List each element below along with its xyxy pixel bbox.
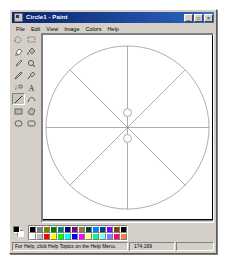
menu-item-edit[interactable]: Edit <box>28 25 43 33</box>
upper-small-circle <box>124 109 132 117</box>
drawing-vector <box>43 35 212 219</box>
color-cell[interactable] <box>92 233 99 240</box>
title-bar[interactable]: Circle1 - Paint _ □ × <box>12 12 214 23</box>
color-cell[interactable] <box>85 233 92 240</box>
color-cell[interactable] <box>78 233 85 240</box>
paint-app-icon <box>14 13 23 22</box>
color-cell[interactable] <box>29 233 36 240</box>
color-cell[interactable] <box>50 233 57 240</box>
svg-text:A: A <box>29 83 35 92</box>
color-cell[interactable] <box>57 226 64 233</box>
color-cell[interactable] <box>85 226 92 233</box>
color-cell[interactable] <box>92 226 99 233</box>
color-cell[interactable] <box>106 233 113 240</box>
color-cell[interactable] <box>71 226 78 233</box>
color-cell[interactable] <box>71 233 78 240</box>
color-cell[interactable] <box>43 226 50 233</box>
color-cell[interactable] <box>36 233 43 240</box>
tool-fill-with-color[interactable] <box>25 45 38 57</box>
color-grid <box>28 225 128 241</box>
menu-bar: File Edit View Image Colors Help <box>12 24 214 33</box>
paint-application-window: Circle1 - Paint _ □ × File Edit View Ima… <box>9 9 217 254</box>
tool-select[interactable] <box>25 33 38 45</box>
tool-line[interactable] <box>12 93 25 105</box>
status-help-text: For Help, click Help Topics on the Help … <box>12 242 128 251</box>
tool-rounded-rectangle[interactable] <box>25 117 38 129</box>
tool-brush[interactable] <box>25 69 38 81</box>
tool-curve[interactable] <box>25 93 38 105</box>
active-color-indicator[interactable] <box>12 225 26 239</box>
desktop-background: Circle1 - Paint _ □ × File Edit View Ima… <box>0 0 228 260</box>
tool-text[interactable]: A <box>25 81 38 93</box>
color-cell[interactable] <box>120 233 127 240</box>
color-cell[interactable] <box>113 226 120 233</box>
tool-airbrush[interactable] <box>12 81 25 93</box>
menu-item-help[interactable]: Help <box>104 25 121 33</box>
color-cell[interactable] <box>113 233 120 240</box>
tool-pick-color[interactable] <box>12 57 25 69</box>
tool-polygon[interactable] <box>25 105 38 117</box>
maximize-icon: □ <box>195 15 202 21</box>
foreground-color-swatch[interactable] <box>13 226 20 233</box>
color-cell[interactable] <box>106 226 113 233</box>
color-cell[interactable] <box>120 226 127 233</box>
color-cell[interactable] <box>64 233 71 240</box>
drawing-canvas[interactable] <box>43 35 213 220</box>
status-coordinates: 174,169 <box>129 242 175 251</box>
status-bar: For Help, click Help Topics on the Help … <box>12 242 214 251</box>
color-cell[interactable] <box>50 226 57 233</box>
close-icon: × <box>205 15 212 21</box>
status-selection-size <box>176 242 214 251</box>
minimize-icon: _ <box>185 15 192 21</box>
tool-palette: A <box>12 33 40 137</box>
minimize-button[interactable]: _ <box>184 14 193 22</box>
window-title: Circle1 - Paint <box>26 14 183 21</box>
canvas-scroll-frame <box>41 33 214 223</box>
maximize-button[interactable]: □ <box>194 14 203 22</box>
menu-item-colors[interactable]: Colors <box>82 25 104 33</box>
color-cell[interactable] <box>57 233 64 240</box>
color-palette-area <box>12 225 214 241</box>
tool-ellipse[interactable] <box>12 117 25 129</box>
tool-pencil[interactable] <box>12 69 25 81</box>
close-button[interactable]: × <box>204 14 213 22</box>
menu-item-view[interactable]: View <box>43 25 61 33</box>
color-cell[interactable] <box>36 226 43 233</box>
color-cell[interactable] <box>64 226 71 233</box>
color-cell[interactable] <box>29 226 36 233</box>
menu-item-image[interactable]: Image <box>61 25 82 33</box>
lower-small-circle <box>124 134 132 142</box>
tool-free-form-select[interactable] <box>12 33 25 45</box>
color-cell[interactable] <box>78 226 85 233</box>
color-cell[interactable] <box>43 233 50 240</box>
tool-rectangle[interactable] <box>12 105 25 117</box>
color-cell[interactable] <box>99 226 106 233</box>
menu-item-file[interactable]: File <box>13 25 28 33</box>
canvas-bottom-gutter <box>42 221 213 222</box>
tool-eraser[interactable] <box>12 45 25 57</box>
color-cell[interactable] <box>99 233 106 240</box>
work-area: A <box>12 33 214 223</box>
tool-magnifier[interactable] <box>25 57 38 69</box>
